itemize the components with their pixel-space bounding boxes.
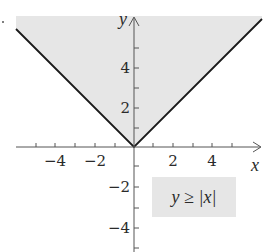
legend-text: y ≥ |x| — [170, 187, 217, 207]
x-tick-label: 4 — [207, 152, 217, 170]
x-tick-label: −2 — [84, 152, 106, 170]
marker-dot — [2, 21, 4, 23]
y-tick-label: −4 — [108, 219, 130, 237]
y-tick-label: 4 — [120, 59, 130, 77]
inequality-legend: y ≥ |x| — [152, 177, 236, 217]
y-axis-label: y — [117, 9, 127, 29]
inequality-graph: −4 −2 2 4 x 4 2 −2 −4 y y ≥ |x| — [0, 0, 265, 252]
x-axis-label: x — [250, 155, 259, 175]
x-tick-label: 2 — [168, 152, 178, 170]
y-tick-label: 2 — [120, 99, 130, 117]
shaded-region — [16, 16, 262, 147]
x-tick-label: −4 — [44, 152, 66, 170]
x-axis: −4 −2 2 4 x — [16, 142, 261, 175]
y-tick-label: −2 — [108, 178, 130, 196]
